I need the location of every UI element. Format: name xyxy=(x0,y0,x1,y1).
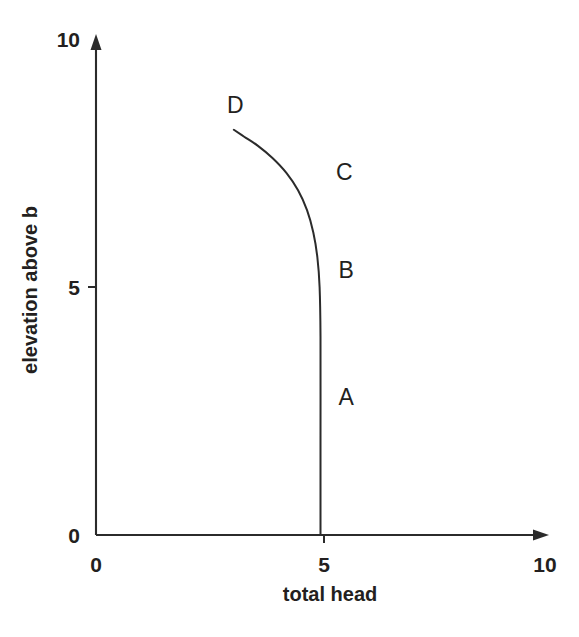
x-axis-group: 0 5 10 total head xyxy=(90,530,557,606)
total-head-curve xyxy=(234,130,321,535)
y-tick-label-5: 5 xyxy=(68,276,80,299)
data-series-group xyxy=(234,130,321,535)
y-tick-label-0: 0 xyxy=(68,524,80,547)
y-axis-title: elevation above b xyxy=(19,206,41,374)
annotation-label-a: A xyxy=(338,384,354,410)
y-tick-label-10: 10 xyxy=(57,28,80,51)
x-axis-arrow-icon xyxy=(533,530,549,541)
chart-figure: 10 5 0 elevation above b 0 5 10 total he… xyxy=(0,0,579,637)
annotation-label-b: B xyxy=(338,257,353,283)
x-tick-label-0: 0 xyxy=(90,553,102,576)
y-axis-arrow-icon xyxy=(91,34,102,50)
y-axis-group: 10 5 0 elevation above b xyxy=(19,28,102,547)
chart-canvas: 10 5 0 elevation above b 0 5 10 total he… xyxy=(0,0,579,637)
x-tick-label-5: 5 xyxy=(318,553,330,576)
annotation-label-c: C xyxy=(336,159,353,185)
annotation-group: D C B A xyxy=(227,92,355,410)
annotation-label-d: D xyxy=(227,92,244,118)
x-tick-label-10: 10 xyxy=(533,553,556,576)
x-axis-title: total head xyxy=(283,583,377,605)
